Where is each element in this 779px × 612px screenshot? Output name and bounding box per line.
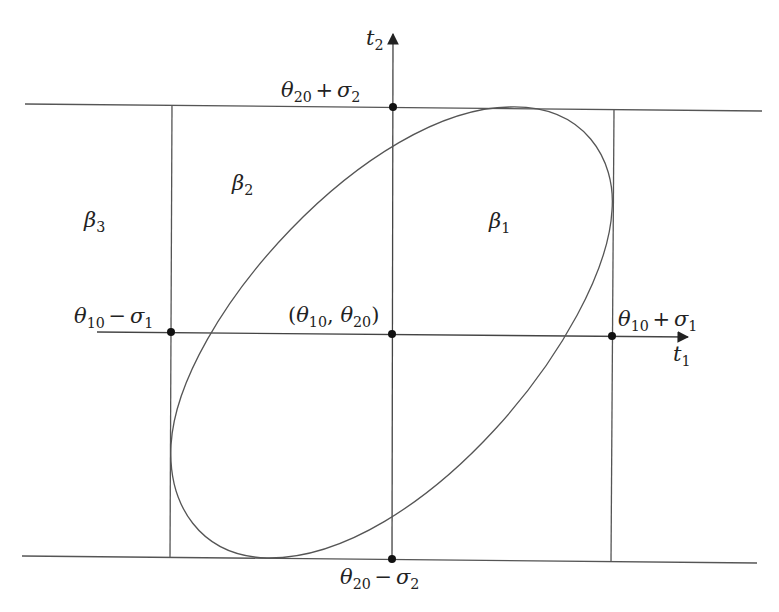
bottom-point <box>388 555 396 563</box>
region-beta-2-label: β2 <box>232 173 253 197</box>
center-point <box>388 330 396 338</box>
right-point-label: θ10+σ1 <box>618 309 697 333</box>
bottom-point-label: θ20−σ2 <box>340 567 419 591</box>
t2-axis-label: t2 <box>366 28 384 52</box>
t2-axis <box>392 34 393 560</box>
t1-axis-label: t1 <box>673 344 691 368</box>
region-beta-1-label: β1 <box>489 211 510 235</box>
center-point-label: (θ10, θ20) <box>288 305 379 329</box>
right-point <box>608 332 616 340</box>
top-point <box>389 103 397 111</box>
left-point <box>167 328 175 336</box>
left-point-label: θ10−σ1 <box>74 306 153 330</box>
region-beta-3-label: β3 <box>84 210 105 234</box>
top-point-label: θ20+σ2 <box>281 80 360 104</box>
